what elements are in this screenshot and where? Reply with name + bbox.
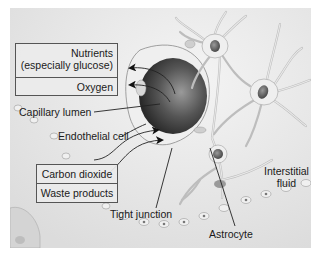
nutrients-cell: Nutrients (especially glucose) bbox=[16, 47, 117, 71]
tight-junction-label: Tight junction bbox=[110, 208, 172, 220]
box-divider bbox=[16, 77, 117, 78]
co2-waste-box: Carbon dioxide Waste products bbox=[36, 164, 118, 203]
nutrients-label: Nutrients bbox=[16, 47, 113, 59]
interstitial-fluid-label: Interstitial fluid bbox=[264, 165, 309, 189]
box-divider bbox=[37, 183, 117, 184]
capillary-lumen-label: Capillary lumen bbox=[19, 106, 91, 118]
endothelial-cell-label: Endothelial cell bbox=[58, 130, 129, 142]
nutrients-sublabel: (especially glucose) bbox=[16, 59, 113, 71]
waste-products-label: Waste products bbox=[37, 187, 117, 199]
blood-brain-barrier-figure: Nutrients (especially glucose) Oxygen Ca… bbox=[10, 8, 311, 248]
astrocyte-label: Astrocyte bbox=[209, 228, 253, 240]
nutrients-oxygen-box: Nutrients (especially glucose) Oxygen bbox=[15, 43, 118, 96]
oxygen-label: Oxygen bbox=[16, 81, 117, 93]
interstitial-label-line2: fluid bbox=[264, 177, 309, 189]
carbon-dioxide-label: Carbon dioxide bbox=[37, 168, 117, 180]
interstitial-label-line1: Interstitial bbox=[264, 165, 309, 177]
